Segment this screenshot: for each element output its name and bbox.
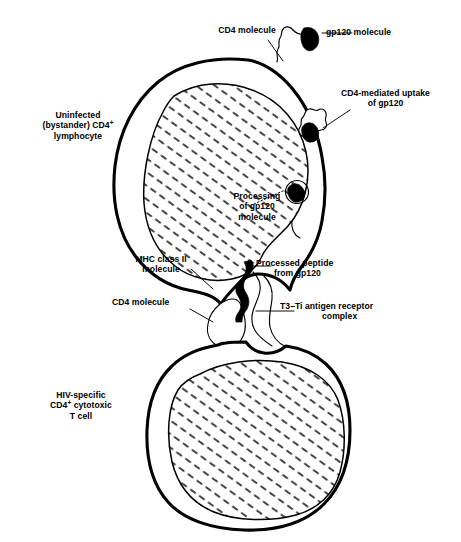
label-uninfected-line2: (bystander) CD4 (43, 120, 110, 130)
label-hiv-line2-pre: CD4 (50, 400, 67, 410)
label-uptake-line1: CD4-mediated uptake (341, 88, 430, 98)
leader-cd4-top (268, 40, 283, 61)
label-t3-ti-receptor: T3–Ti antigen receptorcomplex (280, 301, 416, 322)
label-hiv-line3: T cell (70, 411, 92, 421)
label-uninfected-line1: Uninfected (56, 110, 101, 120)
diagram-canvas: Uninfected(bystander) CD4+lymphocyte CD4… (0, 0, 461, 542)
label-cd4-mediated-uptake: CD4-mediated uptakeof gp120 (318, 88, 453, 109)
label-uptake-line2: of gp120 (368, 98, 404, 108)
label-cd4-molecule-bottom: CD4 molecule (112, 297, 204, 307)
label-uninfected-line3: lymphocyte (54, 131, 102, 141)
label-processed-peptide: Processed peptidefrom gp120 (256, 258, 388, 279)
label-hiv-specific-t-cell: HIV-specificCD4+ cytotoxicT cell (26, 390, 136, 421)
label-gp120-molecule: gp120 molecule (326, 27, 436, 37)
label-peptide-line2: from gp120 (256, 268, 321, 278)
label-processing-line2: of gp120 (239, 201, 275, 211)
label-mhc-line1: MHC class II (135, 254, 186, 264)
label-hiv-line1: HIV-specific (56, 390, 105, 400)
label-processing-line3: molecule (238, 212, 276, 222)
label-mhc-line2: molecule (142, 264, 180, 274)
label-processing-line1: Processing (234, 191, 281, 201)
label-peptide-line1: Processed peptide (256, 258, 333, 268)
label-mhc-class-ii: MHC class IImolecule (118, 254, 204, 275)
mhc-class-ii-molecule (207, 299, 245, 348)
leader-cd4-bottom (190, 309, 213, 322)
label-uninfected-lymphocyte: Uninfected(bystander) CD4+lymphocyte (26, 110, 130, 141)
lower-cell-group (147, 342, 354, 530)
superscript-plus: + (110, 120, 114, 127)
label-cd4-molecule-top: CD4 molecule (204, 25, 290, 35)
gp120-molecule-free (301, 27, 319, 50)
figure-svg (0, 0, 461, 542)
label-t3ti-line1: T3–Ti antigen receptor (280, 301, 373, 311)
leader-uptake (323, 110, 350, 128)
label-processing-of-gp120: Processingof gp120molecule (218, 191, 296, 222)
label-hiv-line2-post: cytotoxic (71, 400, 112, 410)
label-t3ti-line2: complex (280, 311, 357, 321)
